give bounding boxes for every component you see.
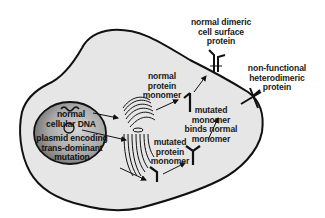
plasmid-label: plasmid encoding trans-dominant mutation xyxy=(34,134,110,163)
non-functional-label: non-functional heterodimeric protein xyxy=(242,64,312,93)
cell-diagram: normal cellular DNA plasmid encoding tra… xyxy=(0,0,325,218)
mutated-binds-normal-label: mutated monomer binds normal monomer xyxy=(182,106,240,144)
normal-dimer-icon xyxy=(209,50,225,72)
normal-dna-label: normal cellular DNA xyxy=(46,110,96,129)
normal-dimeric-label: normal dimeric cell surface protein xyxy=(186,18,256,47)
normal-protein-monomer-label: normal protein monomer xyxy=(142,72,182,101)
